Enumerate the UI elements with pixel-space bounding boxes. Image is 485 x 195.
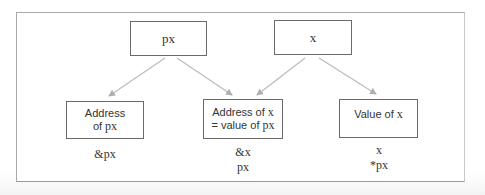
expr-x: x: [339, 143, 419, 158]
expressions-address-of-px: &px: [65, 147, 145, 162]
node-px-label: px: [162, 32, 175, 45]
value-of-x-line1-code: x: [397, 107, 403, 121]
address-of-x-line2-text: = value of: [211, 119, 262, 131]
address-of-x-line2: = value of px: [211, 119, 274, 132]
expressions-value-of-x: x *px: [339, 143, 419, 173]
expressions-address-of-x: &x px: [203, 145, 283, 175]
address-of-x-line1-text: Address of: [212, 106, 268, 118]
arrow-px-to-address-of-x: [177, 58, 232, 95]
arrow-px-to-address-of-px: [109, 58, 165, 96]
value-of-x-line1-text: Value of: [354, 108, 397, 120]
value-of-x-line1: Value of x: [354, 108, 403, 121]
address-of-px-line2-code: px: [105, 119, 117, 133]
address-of-px-line2: of px: [93, 120, 117, 133]
address-of-x-line1-code: x: [268, 105, 274, 119]
arrow-x-to-value-of-x: [319, 58, 376, 94]
node-address-of-px: Address of px: [66, 101, 144, 139]
address-of-x-line2-code: px: [263, 118, 275, 132]
expr-ampersand-px: &px: [65, 147, 145, 162]
expr-deref-px: *px: [339, 158, 419, 173]
arrow-x-to-address-of-x: [257, 58, 305, 95]
expr-ampersand-x: &x: [203, 145, 283, 160]
node-address-of-x: Address of x = value of px: [203, 99, 283, 139]
node-value-of-x: Value of x: [339, 99, 418, 138]
expr-px: px: [203, 160, 283, 175]
node-x: x: [274, 20, 352, 55]
node-px: px: [130, 21, 207, 56]
node-x-label: x: [310, 31, 317, 44]
address-of-px-line2-text: of: [93, 120, 105, 132]
